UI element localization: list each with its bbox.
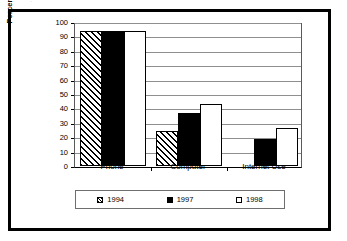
y-tick-label: 100 [46, 19, 68, 26]
y-tick-label: 20 [46, 134, 68, 141]
y-tick-label: 50 [46, 91, 68, 98]
legend-swatch-icon-1994 [97, 197, 103, 203]
bar-computer-1998 [200, 104, 222, 166]
y-tick-mark [71, 95, 74, 96]
y-tick-label: 80 [46, 48, 68, 55]
legend-entry-1994: 1994 [76, 195, 145, 204]
chart-legend: 199419971998 [75, 190, 285, 209]
legend-label: 1998 [246, 195, 263, 204]
category-label-internet-use: Internet Use [226, 162, 302, 171]
y-tick-label: 90 [46, 33, 68, 40]
y-tick-mark [71, 37, 74, 38]
y-tick-mark [71, 81, 74, 82]
y-tick-mark [71, 153, 74, 154]
legend-entry-1998: 1998 [215, 195, 284, 204]
y-tick-label: 30 [46, 120, 68, 127]
y-tick-label: 60 [46, 77, 68, 84]
category-label-computer: Computer [150, 162, 226, 171]
figure-frame: Percent of U.S. Households 1009080706050… [8, 9, 331, 231]
bar-computer-1994 [156, 131, 178, 166]
y-tick-label: 40 [46, 105, 68, 112]
bar-computer-1997 [178, 113, 200, 166]
bar-group [151, 22, 227, 166]
legend-swatch-icon-1997 [167, 197, 173, 203]
y-tick-mark [71, 138, 74, 139]
y-tick-mark [71, 124, 74, 125]
y-tick-mark [71, 66, 74, 67]
bar-internet-use-1998 [276, 128, 298, 166]
y-tick-mark [71, 23, 74, 24]
y-tick-label: 0 [46, 163, 68, 170]
bleed-text: . [30, 0, 38, 4]
legend-entry-1997: 1997 [145, 195, 214, 204]
legend-label: 1997 [177, 195, 194, 204]
chart-canvas: Percent of U.S. Households 1009080706050… [11, 12, 328, 228]
bar-phone-1994 [80, 31, 102, 166]
page-bleed-strip: . [0, 0, 347, 7]
plot-area [74, 23, 302, 168]
bar-group [227, 22, 303, 166]
y-tick-mark [71, 52, 74, 53]
category-label-phone: Phone [74, 162, 150, 171]
y-tick-label: 10 [46, 149, 68, 156]
bar-group [75, 22, 151, 166]
legend-swatch-icon-1998 [236, 197, 242, 203]
y-tick-label: 70 [46, 62, 68, 69]
bar-phone-1998 [124, 31, 146, 166]
bar-phone-1997 [102, 31, 124, 166]
y-tick-mark [71, 109, 74, 110]
y-axis-title: Percent of U.S. Households [5, 0, 14, 38]
legend-label: 1994 [107, 195, 124, 204]
